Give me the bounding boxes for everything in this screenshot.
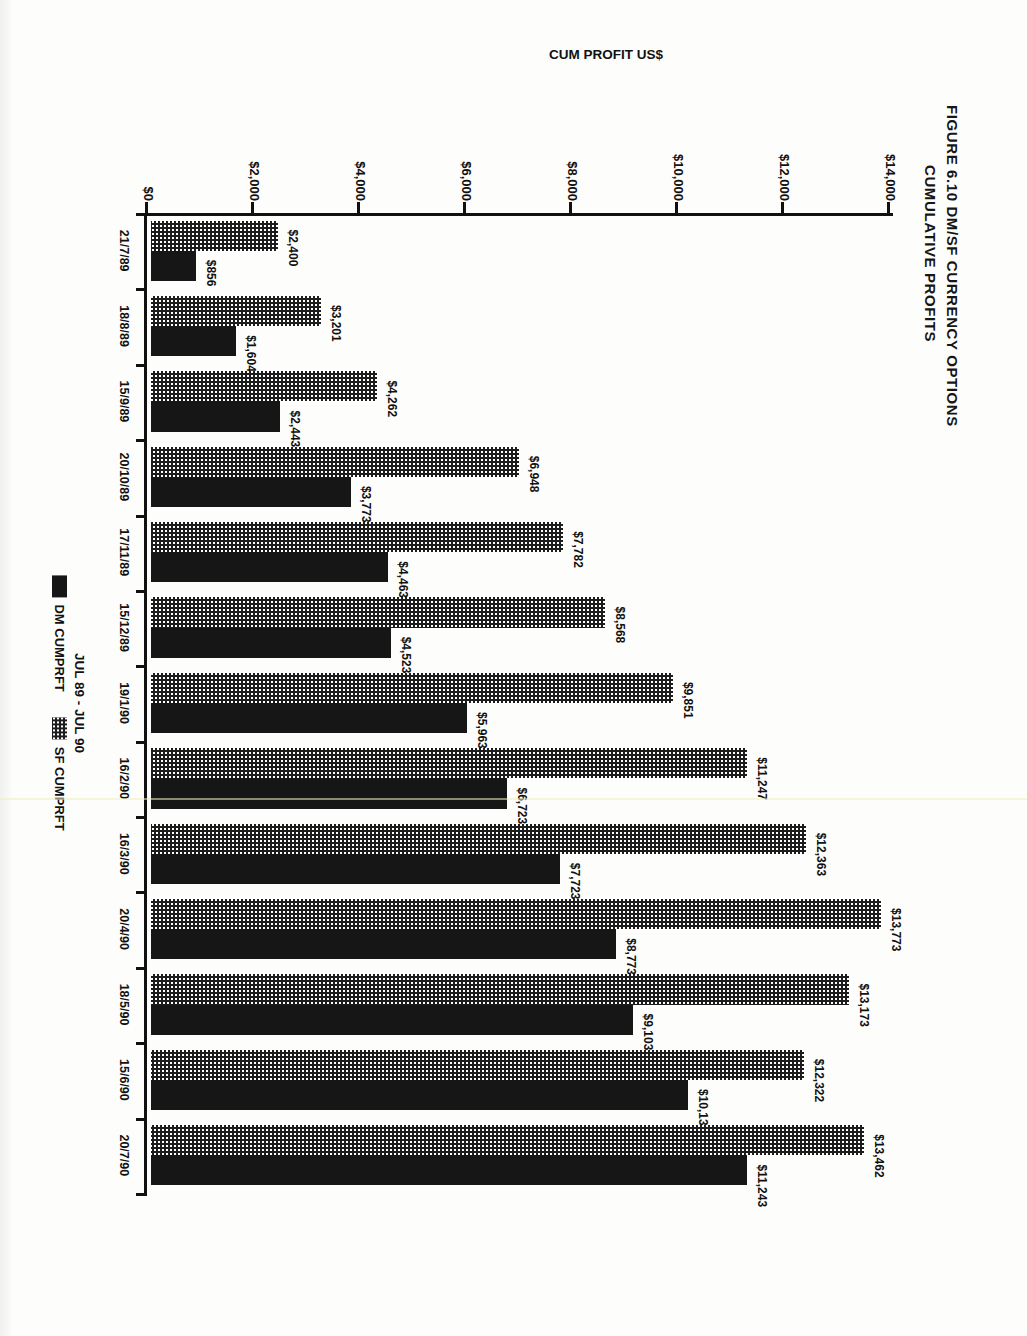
y-axis-tick (251, 202, 254, 213)
x-axis-tick (136, 515, 147, 518)
legend-item: DM CUMPRFT (52, 575, 67, 691)
legend-swatch-icon (52, 575, 67, 597)
x-axis-tick (136, 741, 147, 744)
bar-solid-17-11-89 (151, 552, 388, 582)
y-axis-tick-label: $2,000 (247, 81, 262, 201)
bar-solid-19-1-90 (151, 703, 467, 733)
x-axis-tick-label: 18/5/90 (117, 984, 131, 1026)
bar-value-label: $12,322 (812, 1059, 826, 1102)
bar-dotted-16-2-90 (151, 748, 747, 778)
x-axis-tick-label: 19/1/90 (117, 682, 131, 724)
bar-dotted-18-5-90 (151, 974, 849, 1004)
y-axis-tick (357, 202, 360, 213)
bar-solid-18-5-90 (151, 1005, 633, 1035)
bar-value-label: $8,568 (613, 607, 627, 644)
bar-value-label: $9,103 (641, 1014, 655, 1051)
bar-solid-20-7-90 (151, 1155, 747, 1185)
y-axis-tick-label: $10,000 (671, 81, 686, 201)
bar-value-label: $2,443 (288, 411, 302, 448)
y-axis-tick-label: $12,000 (777, 81, 792, 201)
legend-label: DM CUMPRFT (52, 604, 67, 691)
bar-value-label: $13,773 (888, 908, 902, 951)
y-axis-tick (145, 202, 148, 213)
x-axis-tick (136, 891, 147, 894)
figure-title-line-1: FIGURE 6.10 DM/SF CURRENCY OPTIONS (944, 105, 961, 427)
bar-value-label: $12,363 (814, 833, 828, 876)
bar-solid-16-3-90 (151, 854, 560, 884)
page-edge-shadow (0, 0, 14, 1336)
bar-value-label: $4,523 (398, 637, 412, 674)
bar-value-label: $11,247 (755, 757, 769, 800)
legend-item: SF CUMPRFT (52, 718, 67, 831)
bar-value-label: $5,963 (475, 712, 489, 749)
x-axis-tick (136, 288, 147, 291)
x-axis-tick (136, 816, 147, 819)
bar-value-label: $1,604 (244, 335, 258, 372)
y-axis-tick (675, 202, 678, 213)
legend-label: SF CUMPRFT (52, 747, 67, 831)
bar-dotted-16-3-90 (151, 824, 806, 854)
x-axis-tick-label: 16/3/90 (117, 833, 131, 875)
bar-solid-15-6-90 (151, 1080, 688, 1110)
x-axis-tick-label: 18/8/89 (117, 305, 131, 347)
x-axis-tick (136, 967, 147, 970)
bar-value-label: $3,773 (358, 486, 372, 523)
bar-value-label: $856 (204, 260, 218, 287)
x-axis-tick (136, 590, 147, 593)
y-axis-tick (781, 202, 784, 213)
x-axis-tick-label: 20/4/90 (117, 908, 131, 950)
bar-dotted-17-11-89 (151, 522, 563, 552)
x-axis-tick (136, 439, 147, 442)
bar-value-label: $3,201 (328, 305, 342, 342)
bar-value-label: $2,400 (286, 230, 300, 267)
x-axis-tick (136, 364, 147, 367)
bar-dotted-20-4-90 (151, 899, 881, 929)
figure-title-line-2: CUMULATIVE PROFITS (922, 165, 939, 342)
bar-value-label: $4,262 (384, 380, 398, 417)
y-axis-tick (887, 202, 890, 213)
legend-swatch-icon (52, 718, 67, 740)
bar-solid-15-9-89 (151, 401, 280, 431)
bar-value-label: $7,723 (568, 863, 582, 900)
y-axis-tick-label: $4,000 (353, 81, 368, 201)
bar-solid-18-8-89 (151, 326, 236, 356)
bar-solid-16-2-90 (151, 778, 507, 808)
bar-dotted-15-12-89 (151, 597, 605, 627)
bar-value-label: $6,723 (515, 787, 529, 824)
y-axis-tick (463, 202, 466, 213)
y-axis-tick-label: $6,000 (459, 81, 474, 201)
x-axis-tick (136, 213, 147, 216)
bar-dotted-18-8-89 (151, 296, 321, 326)
x-axis-tick-label: 15/9/89 (117, 381, 131, 423)
category-axis-line (144, 213, 147, 1195)
bar-dotted-19-1-90 (151, 673, 673, 703)
y-axis-tick-label: $8,000 (565, 81, 580, 201)
x-axis-tick (136, 1118, 147, 1121)
bar-value-label: $13,173 (857, 983, 871, 1026)
plot-area: $2,400$856$3,201$1,604$4,262$2,443$6,948… (151, 213, 893, 1193)
bar-value-label: $9,851 (681, 682, 695, 719)
bar-solid-15-12-89 (151, 628, 391, 658)
bar-dotted-15-9-89 (151, 371, 377, 401)
x-axis-tick-label: 15/6/90 (117, 1059, 131, 1101)
bar-solid-20-10-89 (151, 477, 351, 507)
bar-dotted-15-6-90 (151, 1050, 804, 1080)
bar-dotted-20-10-89 (151, 447, 519, 477)
y-axis-tick (569, 202, 572, 213)
bar-solid-21-7-89 (151, 251, 196, 281)
bar-dotted-20-7-90 (151, 1125, 864, 1155)
scanned-page: FIGURE 6.10 DM/SF CURRENCY OPTIONS CUMUL… (0, 0, 1027, 1336)
bar-value-label: $13,462 (872, 1134, 886, 1177)
y-axis-label: CUM PROFIT US$ (549, 47, 663, 62)
bar-value-label: $4,463 (395, 561, 409, 598)
x-axis-tick-label: 15/12/89 (117, 603, 131, 652)
x-axis-label: JUL 89 - JUL 90 (72, 653, 87, 753)
x-axis-tick-label: 16/2/90 (117, 758, 131, 800)
bar-value-label: $7,782 (571, 531, 585, 568)
bar-solid-20-4-90 (151, 929, 616, 959)
x-axis-tick-label: 21/7/89 (117, 230, 131, 272)
chart-stage: FIGURE 6.10 DM/SF CURRENCY OPTIONS CUMUL… (49, 53, 979, 1283)
x-axis-tick-label: 17/11/89 (117, 528, 131, 576)
y-axis-tick-label: $0 (141, 81, 156, 201)
bar-value-label: $8,773 (623, 938, 637, 975)
